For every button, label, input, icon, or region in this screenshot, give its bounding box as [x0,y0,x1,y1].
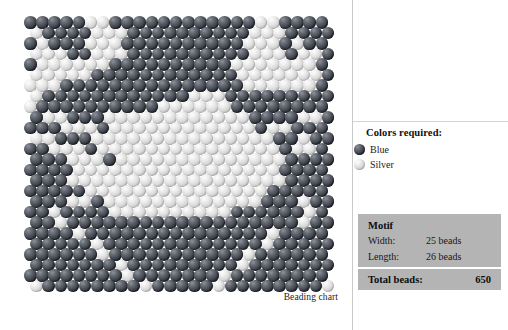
bead-blue [176,280,189,293]
beading-chart-panel: Beading chart [0,0,352,330]
bead-blue [91,280,104,293]
bead-blue [310,280,323,293]
bead-blue [285,280,298,293]
legend-item-silver: Silver [354,157,506,172]
bead-blue [249,280,262,293]
bead-blue [24,16,37,29]
bead-blue [237,280,250,293]
colors-legend: Colors required: Blue Silver [366,127,506,172]
motif-row-value: 25 beads [426,235,461,246]
bead-blue [261,280,274,293]
legend-item-label: Silver [370,159,394,170]
total-beads-row: Total beads: 650 [358,269,501,290]
info-panel: Colors required: Blue Silver Motif Width… [352,0,508,330]
bead-blue [273,111,286,124]
legend-title: Colors required: [366,127,506,138]
bead-blue [273,280,286,293]
bead-blue [194,79,207,92]
bead-blue [303,37,316,50]
motif-row-length: Length: 26 beads [358,248,501,264]
bead-blue [109,100,122,113]
bead-blue [67,111,80,124]
bead-blue [36,122,49,135]
bead-blue [152,280,165,293]
bead-blue [109,16,122,29]
motif-row-key: Width: [368,235,426,246]
motif-summary-table: Motif Width: 25 beads Length: 26 beads T… [358,214,501,290]
chart-caption: Beading chart [0,292,338,302]
bead-blue [103,280,116,293]
bead-blue [176,90,189,103]
bead-blue [67,280,80,293]
bead-blue [48,100,61,113]
motif-row-value: 26 beads [426,251,461,262]
bead-blue [303,100,316,113]
bead-blue [24,58,37,71]
bead-blue [146,100,159,113]
bead-blue [55,280,68,293]
legend-item-blue: Blue [354,142,506,157]
bead-blue [115,280,128,293]
bead-blue [24,269,37,282]
bead-blue [24,122,37,135]
bead-blue [121,100,134,113]
bead-grid [24,16,330,290]
bead-blue [42,280,55,293]
motif-heading: Motif [358,214,501,232]
bead-blue [298,280,311,293]
bead-blue [133,100,146,113]
bead-swatch-silver-icon [354,159,365,170]
bead-blue [79,111,92,124]
bead-blue [55,132,68,145]
total-beads-label: Total beads: [368,274,475,285]
bead-blue [67,132,80,145]
bead-blue [103,153,116,166]
bead-blue [79,280,92,293]
bead-blue [164,90,177,103]
legend-item-label: Blue [370,144,389,155]
bead-blue [24,37,37,50]
motif-row-width: Width: 25 beads [358,232,501,248]
bead-blue [48,37,61,50]
bead-blue [127,280,140,293]
bead-blue [206,79,219,92]
bead-blue [200,280,213,293]
motif-row-key: Length: [368,251,426,262]
bead-blue [164,280,177,293]
bead-swatch-blue-icon [354,144,365,155]
total-beads-value: 650 [475,274,491,285]
bead-blue [231,100,244,113]
bead-blue [188,280,201,293]
bead-blue [225,280,238,293]
